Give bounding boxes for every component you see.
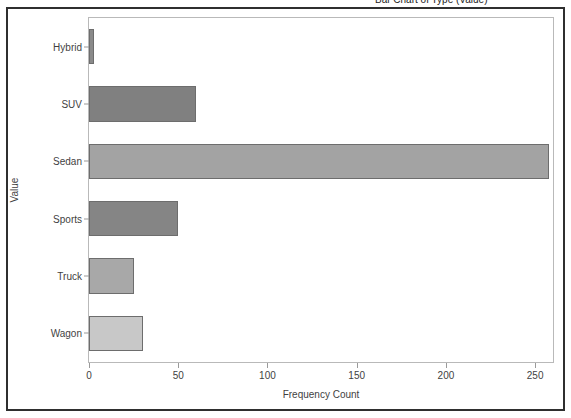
- y-tick-mark: [84, 46, 89, 47]
- y-tick-label-wagon: Wagon: [51, 328, 82, 339]
- x-tick-mark: [446, 363, 447, 368]
- y-tick-label-sedan: Sedan: [53, 156, 82, 167]
- bar-suv: [89, 86, 196, 122]
- bars-container: [89, 18, 553, 362]
- chart-title-clipped: Bar Chart of Type (Value): [375, 0, 487, 5]
- x-tick-mark: [89, 363, 90, 368]
- x-tick-label-250: 250: [527, 370, 544, 381]
- y-axis-title: Value: [9, 178, 20, 203]
- x-tick-label-0: 0: [86, 370, 92, 381]
- x-tick-label-200: 200: [438, 370, 455, 381]
- y-tick-label-hybrid: Hybrid: [53, 41, 82, 52]
- y-tick-mark: [84, 333, 89, 334]
- y-tick-label-suv: SUV: [61, 99, 82, 110]
- x-tick-label-100: 100: [259, 370, 276, 381]
- x-tick-label-150: 150: [348, 370, 365, 381]
- y-tick-mark: [84, 276, 89, 277]
- y-tick-mark: [84, 104, 89, 105]
- y-tick-label-sports: Sports: [53, 213, 82, 224]
- x-tick-label-50: 50: [173, 370, 184, 381]
- bar-hybrid: [89, 29, 94, 65]
- x-tick-mark: [178, 363, 179, 368]
- y-tick-mark: [84, 218, 89, 219]
- y-tick-label-truck: Truck: [57, 271, 82, 282]
- x-tick-mark: [357, 363, 358, 368]
- x-axis-title: Frequency Count: [283, 389, 360, 400]
- x-tick-mark: [535, 363, 536, 368]
- clipped-title-strip: Bar Chart of Type (Value): [0, 0, 571, 7]
- bar-sports: [89, 201, 178, 237]
- bar-wagon: [89, 316, 143, 352]
- bar-truck: [89, 258, 134, 294]
- chart-screenshot: Bar Chart of Type (Value) HybridSUVSedan…: [0, 0, 571, 418]
- x-tick-mark: [267, 363, 268, 368]
- bar-sedan: [89, 144, 549, 180]
- y-tick-mark: [84, 161, 89, 162]
